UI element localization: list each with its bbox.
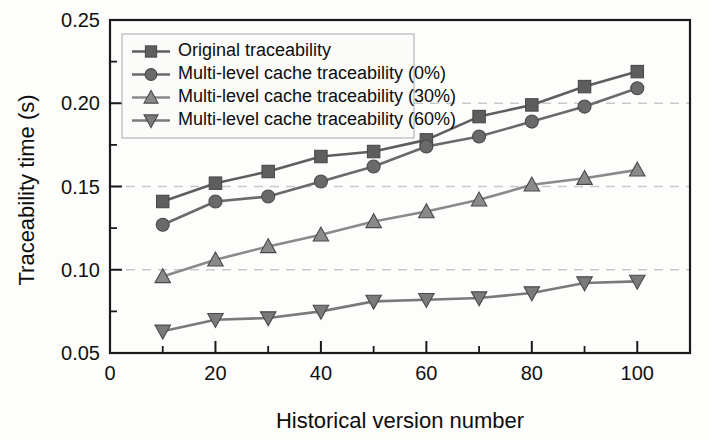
data-point-circle <box>156 218 169 231</box>
chart-container: 0.050.100.150.200.25020406080100 Origina… <box>0 0 709 439</box>
legend-label: Original traceability <box>178 40 331 60</box>
y-axis-title: Traceability time (s) <box>14 94 39 285</box>
data-point-circle <box>262 190 275 203</box>
data-point-square <box>145 46 156 57</box>
traceability-time-line-chart: 0.050.100.150.200.25020406080100 Origina… <box>0 0 709 439</box>
data-point-circle <box>145 69 157 81</box>
data-point-circle <box>473 130 486 143</box>
data-point-square <box>262 165 274 177</box>
x-tick-label: 100 <box>621 362 654 384</box>
legend-entry-3: Multi-level cache traceability (60%) <box>132 109 456 129</box>
x-axis-title: Historical version number <box>276 408 524 433</box>
legend: Original traceabilityMulti-level cache t… <box>122 34 456 138</box>
data-point-circle <box>367 160 380 173</box>
legend-entry-1: Multi-level cache traceability (0%) <box>132 63 446 83</box>
data-point-square <box>631 65 643 77</box>
y-tick-label: 0.25 <box>61 9 100 31</box>
x-tick-label: 0 <box>104 362 115 384</box>
data-point-triangle-up <box>630 162 646 176</box>
series-line <box>163 281 638 331</box>
legend-label: Multi-level cache traceability (30%) <box>178 86 456 106</box>
legend-label: Multi-level cache traceability (0%) <box>178 63 446 83</box>
data-point-square <box>578 80 590 92</box>
data-point-square <box>473 110 485 122</box>
series-3 <box>155 275 645 339</box>
data-point-circle <box>578 100 591 113</box>
data-point-square <box>209 177 221 189</box>
x-tick-label: 80 <box>521 362 543 384</box>
y-tick-label: 0.05 <box>61 342 100 364</box>
data-point-triangle-down <box>155 325 171 339</box>
x-tick-label: 20 <box>204 362 226 384</box>
data-point-circle <box>525 115 538 128</box>
y-tick-label: 0.20 <box>61 92 100 114</box>
y-tick-label: 0.15 <box>61 176 100 198</box>
data-point-square <box>367 145 379 157</box>
legend-label: Multi-level cache traceability (60%) <box>178 109 456 129</box>
x-tick-label: 60 <box>415 362 437 384</box>
data-point-circle <box>631 82 644 95</box>
data-point-square <box>315 150 327 162</box>
x-tick-label: 40 <box>310 362 332 384</box>
data-point-square <box>157 195 169 207</box>
data-point-circle <box>420 140 433 153</box>
data-point-square <box>526 99 538 111</box>
legend-entry-2: Multi-level cache traceability (30%) <box>132 86 456 106</box>
y-tick-label: 0.10 <box>61 259 100 281</box>
data-point-circle <box>314 175 327 188</box>
data-point-circle <box>209 195 222 208</box>
